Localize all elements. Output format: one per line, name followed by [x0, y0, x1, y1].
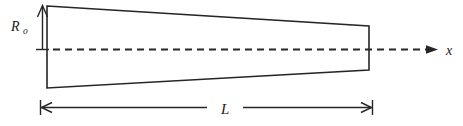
length-label-text: L — [220, 101, 229, 117]
radius-arrow — [38, 6, 48, 50]
x-axis-label: x — [445, 43, 453, 58]
radius-label-main: R — [10, 19, 20, 34]
radius-label: R o — [10, 19, 28, 36]
x-axis-label-text: x — [445, 43, 453, 58]
radius-label-subscript: o — [23, 26, 28, 36]
tapered-rod-figure: x R o L — [0, 0, 463, 126]
tapered-rod-diagram-canvas: x R o L — [0, 0, 463, 126]
x-axis-arrowhead-icon — [426, 45, 438, 54]
length-label: L — [220, 101, 229, 117]
tapered-rod-outline — [47, 6, 369, 88]
length-dimension: L — [41, 100, 373, 117]
